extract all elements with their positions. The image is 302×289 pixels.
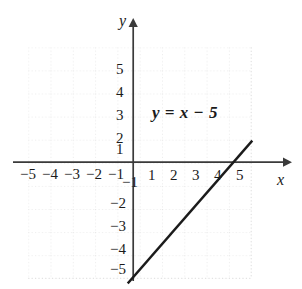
y-tick-label-5: 5: [116, 62, 124, 77]
y-tick-label-1: 1: [116, 142, 124, 157]
x-axis-label: x: [277, 172, 284, 188]
y-axis-label: y: [119, 13, 126, 29]
x-tick-label-2: 2: [170, 168, 178, 183]
x-tick-label-5: 5: [236, 168, 244, 183]
x-tick-label--5: −5: [20, 167, 36, 182]
x-tick-label-3: 3: [192, 168, 200, 183]
graph-figure: y x y = x − 5 −5 −4 −3 −2 −1 1 2 3 4 5 5…: [0, 0, 302, 289]
x-tick-label--4: −4: [42, 167, 58, 182]
y-tick-label--1: −1: [122, 175, 138, 190]
x-tick-label-1: 1: [148, 168, 156, 183]
x-tick-label--3: −3: [64, 167, 80, 182]
y-tick-label-4: 4: [116, 85, 124, 100]
x-tick-label--2: −2: [86, 167, 102, 182]
y-tick-label--5: −5: [110, 262, 126, 277]
coordinate-plane: [0, 0, 302, 289]
x-tick-label-4: 4: [214, 168, 222, 183]
y-tick-label--2: −2: [110, 196, 126, 211]
y-tick-label-3: 3: [116, 108, 124, 123]
y-tick-label--3: −3: [110, 219, 126, 234]
equation-label: y = x − 5: [152, 104, 218, 121]
y-tick-label--4: −4: [110, 242, 126, 257]
